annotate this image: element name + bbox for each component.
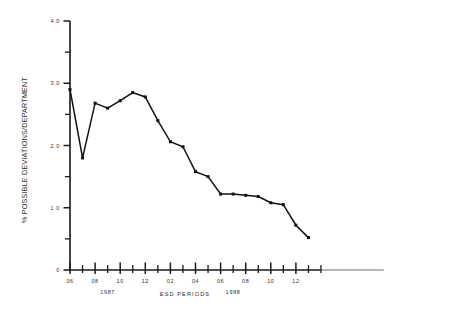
- data-point: [244, 194, 247, 197]
- x-year-label: 1987: [100, 289, 115, 295]
- data-point: [156, 119, 159, 122]
- chart-container: 01.02.03.04.0 06081012020406081012198719…: [0, 0, 457, 315]
- y-tick-label: 3.0: [50, 80, 60, 86]
- axis-labels: ESD PERIODS% POSSIBLE DEVIATIONS/DEPARTM…: [20, 76, 210, 297]
- data-point: [194, 170, 197, 173]
- data-point: [294, 224, 297, 227]
- x-tick-label: 06: [217, 278, 224, 284]
- y-tick-label: 1.0: [50, 205, 60, 211]
- y-tick-label: 2.0: [50, 143, 60, 149]
- line-chart: 01.02.03.04.0 06081012020406081012198719…: [0, 0, 457, 315]
- data-series: [69, 88, 310, 239]
- data-point: [144, 95, 147, 98]
- x-tick-label: 08: [242, 278, 249, 284]
- y-tick-label: 4.0: [50, 18, 60, 24]
- y-axis: 01.02.03.04.0: [50, 18, 70, 273]
- data-point: [69, 88, 72, 91]
- x-year-label: 1988: [226, 289, 241, 295]
- data-point: [119, 99, 122, 102]
- y-tick-label: 0: [56, 267, 60, 273]
- x-axis: 0608101202040608101219871988: [66, 263, 383, 296]
- x-tick-label: 06: [66, 278, 73, 284]
- x-tick-label: 10: [117, 278, 124, 284]
- y-axis-title: % POSSIBLE DEVIATIONS/DEPARTMENT: [20, 76, 29, 223]
- x-tick-label: 12: [142, 278, 149, 284]
- x-tick-label: 10: [267, 278, 274, 284]
- data-point: [257, 195, 260, 198]
- series-line: [70, 89, 308, 237]
- data-point: [232, 193, 235, 196]
- data-point: [106, 107, 109, 110]
- data-point: [307, 236, 310, 239]
- data-point: [269, 201, 272, 204]
- x-tick-label: 02: [167, 278, 174, 284]
- data-point: [219, 193, 222, 196]
- x-tick-label: 12: [292, 278, 299, 284]
- data-point: [81, 156, 84, 159]
- data-point: [181, 145, 184, 148]
- data-point: [207, 175, 210, 178]
- x-axis-title: ESD PERIODS: [160, 291, 210, 297]
- data-point: [131, 91, 134, 94]
- data-point: [282, 203, 285, 206]
- data-point: [94, 102, 97, 105]
- x-tick-label: 04: [192, 278, 199, 284]
- data-point: [169, 140, 172, 143]
- x-tick-label: 08: [91, 278, 98, 284]
